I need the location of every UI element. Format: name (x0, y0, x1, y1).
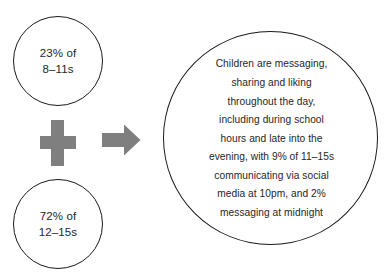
summary-circle: Children are messaging, sharing and liki… (163, 31, 378, 245)
plus-icon-vertical-bar (51, 120, 64, 166)
summary-line-6: evening, with 9% of 11–15s (209, 148, 334, 167)
arrow-right-icon (102, 124, 141, 156)
summary-line-5: hours and late into the (221, 130, 323, 149)
summary-line-7: communicating via social (214, 167, 328, 186)
diagram-canvas: 23% of 8–11s 72% of 12–15s Children are … (0, 0, 387, 273)
summary-statement: Children are messaging, sharing and liki… (164, 32, 379, 246)
summary-line-4: including during school (219, 111, 324, 130)
stat-circle-younger-children: 23% of 8–11s (13, 16, 103, 106)
summary-line-1: Children are messaging, (216, 55, 328, 74)
stat-agegroup-older: 12–15s (39, 224, 77, 240)
summary-line-8: media at 10pm, and 2% (217, 185, 326, 204)
stat-agegroup-younger: 8–11s (43, 61, 74, 77)
stat-percent-younger: 23% of (40, 45, 76, 61)
plus-icon (40, 120, 76, 166)
summary-line-9: messaging at midnight (220, 204, 323, 223)
summary-line-2: sharing and liking (231, 74, 311, 93)
stat-percent-older: 72% of (40, 208, 76, 224)
arrow-right-icon-path (102, 125, 141, 156)
stat-circle-older-children: 72% of 12–15s (13, 179, 103, 269)
summary-line-3: throughout the day, (228, 93, 316, 112)
